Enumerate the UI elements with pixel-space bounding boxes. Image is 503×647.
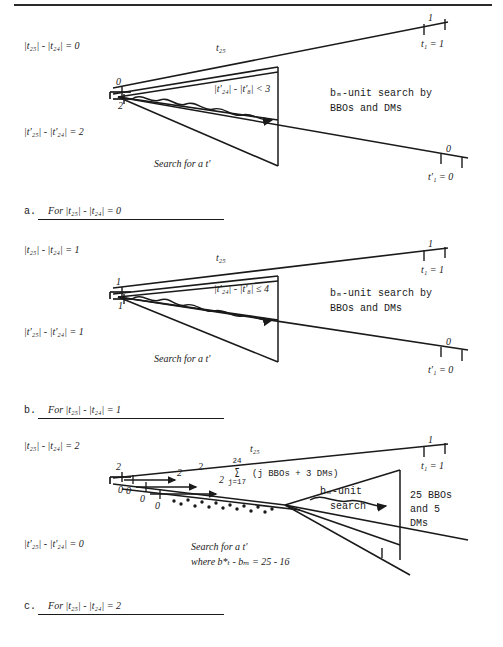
panel-c-step-label-lower-3: 0 — [155, 500, 160, 513]
panel-c-vertex-upper-tick: 2 — [116, 461, 121, 474]
panel-c-bottom-text-line2: where b*ₜ - bₘ = 25 - 16 — [191, 556, 290, 569]
panel-a-bottom-text: Search for a t' — [154, 158, 210, 171]
panel-b-bottom-text: Search for a t' — [154, 353, 210, 366]
panel-c-side-note-line1: 25 BBOs — [410, 490, 452, 503]
figure-page: |t₂₅| - |t₂₄| = 0 |t'₂₅| - |t'₂₄| = 2 0 … — [0, 0, 503, 647]
panel-b-top-end-label: t₁ = 1 — [421, 264, 444, 277]
panel-c-edge-label: t₂₅ — [250, 443, 260, 456]
panel-c-sum-lower-limit: j=17 — [228, 479, 246, 487]
panel-c-summation: 24 Σ j=17 — [228, 458, 246, 486]
panel-b-left-top-label: |t₂₅| - |t₂₄| = 1 — [24, 244, 80, 257]
panel-a-right-text-line2: BBOs and DMs — [330, 103, 402, 116]
panel-b-left-bottom-label: |t'₂₅| - |t'₂₄| = 1 — [24, 326, 84, 339]
panel-a-left-bottom-label: |t'₂₅| - |t'₂₄| = 2 — [24, 126, 84, 139]
panel-a-caption-rule — [38, 219, 224, 220]
panel-c-side-note-line2: and 5 — [410, 504, 440, 517]
panel-a-top-end-label: t₁ = 1 — [421, 38, 444, 51]
panel-c-step-label-lower-1: 0 — [126, 485, 131, 498]
panel-c-side-note-line3: DMs — [410, 518, 428, 531]
panel-b-right-text-line1: bₘ-unit search by — [330, 288, 432, 301]
panel-a-right-text-line1: bₘ-unit search by — [330, 88, 432, 101]
panel-b-lines — [110, 247, 468, 362]
panel-c-left-top-label: |t₂₅| - |t₂₄| = 2 — [24, 440, 80, 453]
panel-b-wavy-label: |t'₂₄| - |t'₈| ≤ 4 — [214, 283, 269, 296]
panel-b-right-text-line2: BBOs and DMs — [330, 303, 402, 316]
panel-a-left-top-label: |t₂₅| - |t₂₄| = 0 — [24, 40, 80, 53]
panel-c-top-end-tick: 1 — [428, 434, 433, 447]
panel-a-vertex-upper-tick: 0 — [116, 76, 121, 89]
panel-c-caption-prefix: c. — [24, 601, 36, 612]
sigma-icon: Σ — [231, 466, 242, 479]
panel-c-step-label-lower-2: 0 — [140, 493, 145, 506]
panel-a-wavy-label: |t'₂₄| - |t'₈| < 3 — [214, 83, 270, 96]
panel-a-caption-prefix: a. — [24, 206, 36, 217]
panel-c-top-end-label: t₁ = 1 — [421, 460, 444, 473]
panel-b-caption-prefix: b. — [24, 405, 36, 416]
panel-c-step-label-upper-3: 2 — [219, 474, 224, 487]
panel-b-edge-label: t₂₅ — [216, 252, 226, 265]
panel-c-vertex-lower-tick: 0 — [118, 484, 123, 497]
panel-a-top-end-tick: 1 — [428, 12, 433, 25]
panel-b-vertex-upper-tick: 1 — [116, 276, 121, 289]
panel-c-step-label-upper-2: 2 — [198, 461, 203, 474]
panel-b-bottom-end-tick: 0 — [446, 336, 451, 349]
panel-b-caption-text: For |t₂₅| - |t₂₄| = 1 — [48, 404, 121, 415]
panel-c-right-text-line1: bₘ-unit — [320, 486, 362, 499]
panel-c-left-bottom-label: |t'₂₅| - |t'₂₄| = 0 — [24, 538, 84, 551]
panel-b-caption-rule — [38, 418, 224, 419]
panel-b-caption: b. For |t₂₅| - |t₂₄| = 1 — [24, 404, 224, 419]
panel-a-bottom-end-tick: 0 — [446, 143, 451, 156]
panel-a-caption-text: For |t₂₅| - |t₂₄| = 0 — [48, 205, 121, 216]
panel-b-bottom-end-label: t'₁ = 0 — [428, 364, 453, 377]
panel-a-vertex-lower-tick: 2 — [118, 100, 123, 113]
panel-c-caption-rule — [38, 614, 224, 615]
panel-b-top-end-tick: 1 — [428, 238, 433, 251]
panel-a-edge-label: t₂₅ — [216, 42, 226, 55]
panel-c-sum-term: (j BBOs + 3 DMs) — [252, 469, 338, 480]
panel-a-caption: a. For |t₂₅| - |t₂₄| = 0 — [24, 205, 224, 220]
panel-c-bottom-text-line1: Search for a t' — [191, 541, 247, 554]
panel-c-caption-text: For |t₂₅| - |t₂₄| = 2 — [48, 600, 121, 611]
panel-b-vertex-lower-tick: 1 — [118, 300, 123, 313]
panel-c-caption: c. For |t₂₅| - |t₂₄| = 2 — [24, 600, 224, 615]
panel-c-right-text-line2: search — [330, 501, 366, 514]
panel-a-bottom-end-label: t'₁ = 0 — [428, 171, 453, 184]
panel-c-step-label-upper-1: 2 — [177, 467, 182, 480]
